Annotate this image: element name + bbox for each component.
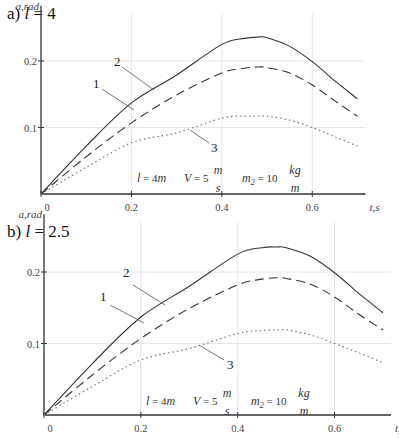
- annot-velocity-den: s: [225, 404, 230, 418]
- annot-velocity-num: m: [223, 386, 232, 400]
- curve-label-2: 2: [123, 265, 130, 280]
- annot-length: l = 4m: [146, 394, 176, 408]
- x-tick-label: 0: [47, 423, 52, 434]
- annot-mass-den: m: [300, 404, 309, 418]
- y-axis-label: a,rad: [18, 208, 42, 220]
- callout-leader: [133, 285, 165, 305]
- annot-mass: m2 = 10: [251, 394, 287, 410]
- x-tick-label: 0.4: [231, 423, 245, 434]
- parameter-annotation: l = 4mV = 5msm2 = 10kgm: [146, 386, 310, 418]
- callout-leader: [199, 345, 224, 360]
- curve-label-3: 3: [227, 357, 234, 372]
- curve-label-1: 1: [100, 289, 107, 304]
- x-tick-label: 0.2: [134, 423, 147, 434]
- x-axis-label: t,s: [395, 422, 399, 434]
- chart-panel-b: b) l = 2.5 00.20.40.60.10.2a,radt,s123l …: [0, 0, 399, 448]
- y-tick-label: 0.1: [27, 339, 40, 350]
- line-chart-b: 00.20.40.60.10.2a,radt,s123l = 4mV = 5ms…: [0, 0, 399, 448]
- y-tick-label: 0.2: [27, 267, 40, 278]
- annot-mass-num: kg: [298, 386, 309, 400]
- annot-velocity: V = 5: [193, 394, 218, 408]
- callout-leader: [110, 305, 144, 323]
- x-tick-label: 0.6: [328, 423, 341, 434]
